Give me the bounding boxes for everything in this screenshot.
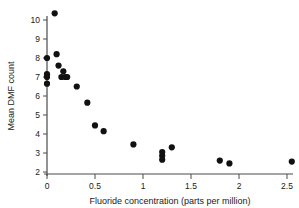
- y-tick-label: 5: [35, 110, 40, 120]
- scatter-plot-figure: 2345678910 00.511.522.5 Fluoride concent…: [0, 0, 299, 208]
- plot-canvas: 2345678910 00.511.522.5 Fluoride concent…: [0, 0, 299, 208]
- data-point: [101, 128, 107, 134]
- data-point: [169, 144, 175, 150]
- x-tick-label: 1: [141, 181, 146, 191]
- data-point: [44, 55, 50, 61]
- data-point: [159, 157, 165, 163]
- x-axis-label: Fluoride concentration (parts per millio…: [89, 196, 250, 206]
- data-point: [84, 100, 90, 106]
- data-point: [226, 160, 232, 166]
- data-point: [130, 141, 136, 147]
- data-point: [55, 63, 61, 69]
- x-tick-label: 1.5: [185, 181, 197, 191]
- x-axis-ticks: 00.511.522.5: [45, 174, 294, 191]
- y-axis-label: Mean DMF count: [6, 61, 16, 131]
- data-point: [52, 10, 58, 16]
- x-tick-label: 2: [237, 181, 242, 191]
- y-tick-label: 2: [35, 167, 40, 177]
- x-tick-label: 0: [45, 181, 50, 191]
- data-point: [44, 74, 50, 80]
- data-point: [289, 158, 295, 164]
- x-tick-label: 2.5: [281, 181, 293, 191]
- y-tick-label: 8: [35, 53, 40, 63]
- y-tick-label: 3: [35, 148, 40, 158]
- data-point: [74, 83, 80, 89]
- data-point: [92, 122, 98, 128]
- data-point: [44, 81, 50, 87]
- y-tick-label: 4: [35, 129, 40, 139]
- y-axis-ticks: 2345678910: [31, 15, 47, 177]
- data-point: [54, 51, 60, 57]
- x-tick-label: 0.5: [89, 181, 101, 191]
- y-tick-label: 9: [35, 34, 40, 44]
- data-point: [64, 74, 70, 80]
- y-tick-label: 10: [31, 15, 41, 25]
- data-point: [217, 158, 223, 164]
- y-tick-label: 7: [35, 72, 40, 82]
- y-tick-label: 6: [35, 91, 40, 101]
- data-points-layer: [44, 10, 295, 166]
- data-point: [60, 68, 66, 74]
